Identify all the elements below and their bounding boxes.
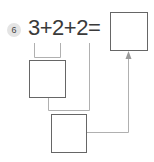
arrow-up-icon bbox=[126, 51, 132, 59]
bracket-connector bbox=[35, 43, 61, 58]
sum-connector bbox=[49, 43, 90, 111]
connector-lines bbox=[0, 0, 154, 162]
result-connector bbox=[87, 58, 129, 133]
